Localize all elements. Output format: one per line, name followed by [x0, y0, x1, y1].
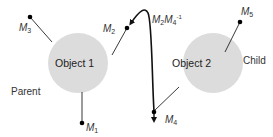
m4-subscript: 4 [173, 119, 177, 126]
transform-b-superscript: -1 [177, 14, 182, 20]
m3-connector [30, 17, 52, 42]
m2-label: M2 [103, 24, 115, 35]
object-1-label: Object 1 [55, 58, 94, 69]
m2-dot [125, 26, 130, 31]
transform-label: M2M4-1 [152, 14, 182, 26]
transform-diagram [0, 0, 273, 137]
m2-subscript: 2 [111, 28, 115, 35]
m5-label: M5 [241, 7, 253, 18]
m4-label: M4 [165, 115, 177, 126]
m4-dot [152, 110, 157, 115]
object-2-label: Object 2 [172, 58, 211, 69]
m1-subscript: 1 [94, 127, 98, 134]
m3-label: M3 [19, 23, 31, 34]
m5-dot [238, 20, 243, 25]
transform-arrow-upper [131, 10, 154, 111]
parent-label: Parent [11, 87, 40, 97]
m5-subscript: 5 [249, 11, 253, 18]
transform-b-base: M [164, 14, 172, 25]
m3-subscript: 3 [27, 27, 31, 34]
m1-label: M1 [86, 123, 98, 134]
m1-dot [80, 121, 85, 126]
transform-b-subscript: 4 [173, 19, 177, 26]
child-label: Child [243, 56, 266, 66]
m4-connector [154, 87, 179, 111]
m3-dot [28, 15, 33, 20]
